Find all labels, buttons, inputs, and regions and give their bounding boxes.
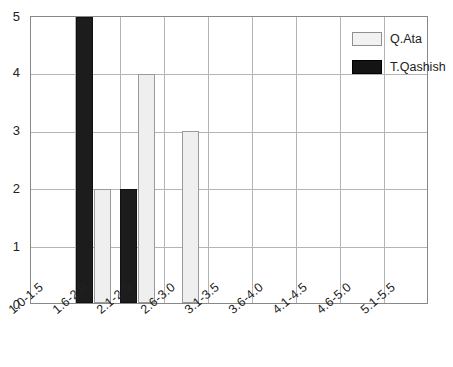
y-tick-label-5: 5 [0,10,20,23]
legend-item-t-qashish: T.Qashish [352,56,452,78]
gridline-x-4 [208,17,209,303]
legend-label-t-qashish: T.Qashish [390,60,446,74]
light-swatch-icon [352,32,382,46]
gridline-x-3 [164,17,165,303]
legend: Q.Ata T.Qashish [352,28,452,84]
gridline-x-7 [340,17,341,303]
bar-q-ata-2.6-3.0 [182,131,199,303]
legend-item-q-ata: Q.Ata [352,28,452,50]
y-tick-label-4: 4 [0,66,20,79]
gridline-x-5 [252,17,253,303]
bar-q-ata-2.1-2.5 [138,74,155,303]
y-tick-label-2: 2 [0,182,20,195]
y-tick-label-1: 1 [0,240,20,253]
dark-swatch-icon [352,60,382,74]
x-axis: 1.0-1.5 1.6-2.0 2.1-2.5 2.6-3.0 3.1-3.5 … [0,306,453,367]
y-tick-label-3: 3 [0,124,20,137]
legend-label-q-ata: Q.Ata [390,32,422,46]
bar-chart: 5 4 3 2 1 0 1.0-1.5 1.6-2.0 2.1-2.5 2.6-… [0,0,453,367]
bar-t-qashish-1.6-2.0 [76,17,93,303]
gridline-x-6 [296,17,297,303]
bar-q-ata-1.6-2.0 [94,189,111,303]
